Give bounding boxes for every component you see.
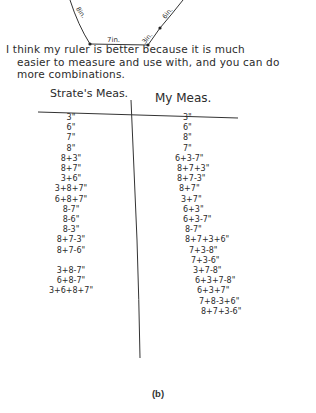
column-divider — [131, 100, 140, 358]
ruler-point — [158, 26, 161, 29]
measurement-entry: 6+3-7" — [155, 154, 255, 164]
header-my-meas: My Meas. — [155, 91, 211, 105]
measurement-entry: 6+3" — [155, 205, 255, 215]
measurement-entry: 8+3" — [28, 154, 114, 164]
figure-caption: (b) — [0, 388, 316, 399]
measurement-entry: 8-7" — [28, 205, 114, 215]
measurement-entry: 6+3+7" — [155, 286, 255, 296]
measurement-entry: 3+7" — [155, 195, 255, 205]
measurement-entry: 8+7" — [28, 164, 114, 174]
measurement-entry: 8" — [28, 144, 114, 154]
measurement-entry: 6+3+7-8" — [155, 276, 255, 286]
measurement-entry: 3" — [155, 113, 255, 123]
measurement-entry — [28, 256, 114, 266]
measurement-entry: 3+6" — [28, 174, 114, 184]
measurement-entry: 8+7-3" — [155, 174, 255, 184]
paragraph-line: easier to measure and use with, and you … — [6, 56, 316, 69]
measurement-entry: 7+3-8" — [155, 246, 255, 256]
measurement-entry: 6+8-7" — [28, 276, 114, 286]
my-measurements-list: 3"6"8"7"6+3-7"8+7+3"8+7-3"8+7"3+7"6+3"6+… — [155, 113, 255, 317]
measurement-entry: 6" — [155, 123, 255, 133]
measurement-entry: 8-6" — [28, 215, 114, 225]
measurement-entry: 6+8+7" — [28, 195, 114, 205]
measurement-entry: 8+7" — [155, 184, 255, 194]
measurement-entry: 6+3-7" — [155, 215, 255, 225]
paragraph-line: more combinations. — [6, 68, 316, 81]
segment-label-6in: 6in. — [161, 6, 175, 20]
measurement-entry: 8" — [155, 133, 255, 143]
measurement-entry: 8-3" — [28, 225, 114, 235]
measurement-entry: 8+7-3" — [28, 235, 114, 245]
measurement-entry: 7" — [155, 144, 255, 154]
measurement-entry: 8+7+3-6" — [155, 307, 255, 317]
measurement-entry: 3+6+8+7" — [28, 286, 114, 296]
paragraph-line: I think my ruler is better because it is… — [6, 43, 316, 56]
measurement-entry: 3" — [28, 113, 114, 123]
measurement-entry: 8+7+3+6" — [155, 235, 255, 245]
measurement-entry: 3+8-7" — [28, 266, 114, 276]
measurement-entry: 6" — [28, 123, 114, 133]
measurement-entry: 7+8-3+6" — [155, 297, 255, 307]
measurement-entry: 8+7+3" — [155, 164, 255, 174]
measurement-entry: 8+7-6" — [28, 246, 114, 256]
measurement-entry: 3+7-8" — [155, 266, 255, 276]
header-strates-meas: Strate's Meas. — [50, 87, 128, 100]
measurement-entry: 7" — [28, 133, 114, 143]
measurement-entry: 7+3-6" — [155, 256, 255, 266]
explanation-paragraph: I think my ruler is better because it is… — [6, 43, 316, 81]
strates-measurements-list: 3"6"7"8"8+3"8+7"3+6"3+8+7"6+8+7"8-7"8-6"… — [28, 113, 114, 297]
measurement-entry: 8-7" — [155, 225, 255, 235]
measurement-entry: 3+8+7" — [28, 184, 114, 194]
